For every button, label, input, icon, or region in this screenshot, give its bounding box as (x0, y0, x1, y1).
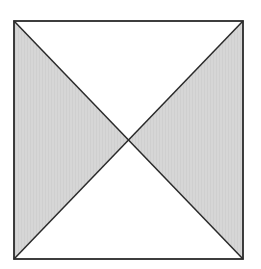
square-diagonals-diagram (0, 0, 261, 269)
